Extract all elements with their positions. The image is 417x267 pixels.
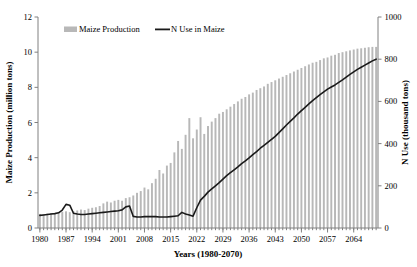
bar-1996	[99, 206, 101, 228]
bar-2008	[144, 188, 146, 228]
bar-2042	[271, 82, 273, 228]
y2-axis-title: N Use (thousand tons)	[400, 80, 410, 165]
legend-label-maize-production: Maize Production	[79, 24, 140, 34]
bar-2033	[237, 101, 239, 228]
chart-container: 0246810120200400600800100019801987199420…	[0, 0, 417, 267]
bar-2044	[278, 79, 280, 228]
bar-2023	[200, 117, 202, 228]
bar-2029	[222, 112, 224, 228]
x-tick-label-2064: 2064	[345, 234, 363, 244]
y2-tick-label-400: 400	[385, 139, 398, 149]
x-tick-label-2043: 2043	[267, 234, 284, 244]
dual-axis-chart: 0246810120200400600800100019801987199420…	[0, 0, 417, 267]
y-tick-label-2: 2	[28, 188, 32, 198]
bar-1983	[50, 213, 52, 228]
y-axis-title: Maize Production (million tons)	[4, 61, 14, 183]
bar-1994	[91, 208, 93, 228]
bar-2038	[256, 90, 258, 228]
bar-2065	[356, 49, 358, 228]
bar-2058	[330, 56, 332, 228]
x-tick-label-1987: 1987	[58, 234, 75, 244]
y2-tick-label-0: 0	[385, 223, 389, 233]
bar-2007	[140, 191, 142, 228]
bar-2037	[252, 93, 254, 228]
bar-1987	[65, 211, 67, 228]
bar-1988	[69, 212, 71, 228]
bar-2039	[259, 88, 261, 228]
bar-1982	[46, 214, 48, 228]
bar-1998	[106, 202, 108, 228]
bar-1981	[43, 214, 45, 228]
bar-2046	[285, 75, 287, 228]
bar-2064	[353, 50, 355, 228]
bar-2056	[323, 58, 325, 228]
y2-tick-label-200: 200	[385, 181, 398, 191]
bar-2000	[114, 201, 116, 228]
bar-2032	[233, 104, 235, 228]
bar-2052	[308, 64, 310, 228]
y-tick-label-4: 4	[28, 153, 33, 163]
bar-1992	[84, 210, 86, 228]
bar-2002	[121, 201, 123, 228]
bar-1997	[102, 203, 104, 228]
bar-1995	[95, 207, 97, 228]
x-tick-label-2008: 2008	[136, 234, 153, 244]
legend-swatch-maize-production	[64, 27, 77, 33]
bar-2053	[312, 63, 314, 228]
bar-2068	[368, 47, 370, 228]
bar-2070	[375, 47, 377, 228]
maize-production-bars	[39, 47, 377, 228]
bar-2041	[267, 84, 269, 228]
bar-2060	[338, 53, 340, 228]
bar-1984	[54, 214, 56, 228]
x-tick-label-2057: 2057	[319, 234, 336, 244]
y-tick-label-10: 10	[24, 47, 33, 57]
bar-1986	[61, 212, 63, 228]
bar-2024	[203, 134, 205, 228]
bar-2030	[226, 109, 228, 228]
legend-label-n-use: N Use in Maize	[171, 24, 225, 34]
bar-2035	[244, 97, 246, 228]
bar-2001	[117, 200, 119, 228]
x-tick-label-2029: 2029	[214, 234, 231, 244]
y2-tick-label-1000: 1000	[385, 12, 402, 22]
x-axis-title: Years (1980-2070)	[174, 249, 243, 259]
bar-2018	[181, 149, 183, 228]
bar-2004	[129, 197, 131, 228]
bar-1990	[76, 210, 78, 228]
y2-tick-label-800: 800	[385, 54, 398, 64]
bar-2027	[215, 118, 217, 228]
bar-2025	[207, 126, 209, 228]
bar-2069	[371, 47, 373, 228]
bar-2031	[229, 107, 231, 228]
bar-1999	[110, 203, 112, 229]
y-tick-label-8: 8	[28, 82, 32, 92]
bar-2063	[349, 50, 351, 228]
bar-2015	[170, 163, 172, 228]
bar-2049	[297, 70, 299, 228]
bar-2010	[151, 183, 153, 228]
bar-2022	[196, 130, 198, 228]
bar-2047	[289, 73, 291, 228]
x-tick-label-1980: 1980	[31, 234, 48, 244]
y-tick-label-6: 6	[28, 118, 32, 128]
bar-1993	[87, 209, 89, 228]
bar-2055	[319, 60, 321, 228]
bar-2043	[274, 80, 276, 228]
x-tick-label-2050: 2050	[293, 234, 310, 244]
bar-2013	[162, 173, 164, 228]
bar-2011	[155, 179, 157, 228]
chart-legend: Maize ProductionN Use in Maize	[64, 24, 225, 34]
bar-2036	[248, 94, 250, 228]
bar-2057	[327, 57, 329, 228]
bar-2003	[125, 198, 127, 228]
bar-2012	[158, 170, 160, 228]
bar-2051	[304, 66, 306, 228]
bar-2040	[263, 86, 265, 228]
bar-2005	[132, 195, 134, 228]
x-tick-label-1994: 1994	[84, 234, 102, 244]
bar-2054	[315, 62, 317, 228]
bar-1985	[58, 213, 60, 228]
bar-2014	[166, 166, 168, 228]
bar-2028	[218, 114, 220, 228]
